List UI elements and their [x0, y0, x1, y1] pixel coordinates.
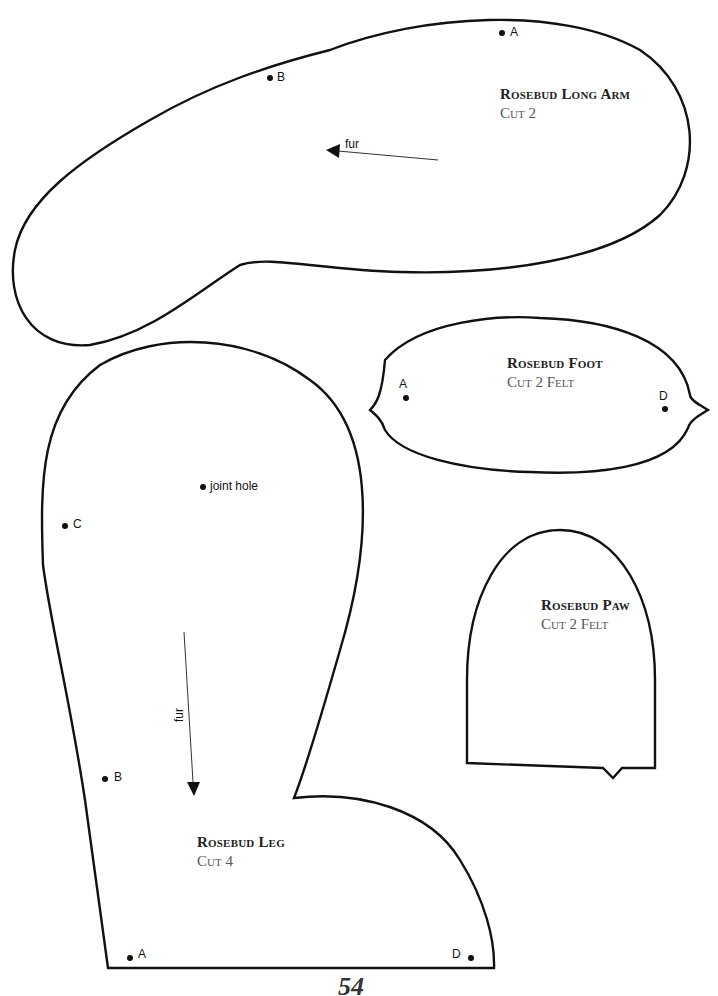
foot-outline [370, 317, 708, 472]
leg-fur-label: fur [172, 708, 186, 722]
point-B-leg [102, 776, 108, 782]
point-B-arm [267, 75, 273, 81]
point-joint-hole [200, 484, 206, 490]
leg-point-C-label: C [73, 517, 82, 531]
foot-point-D-label: D [659, 389, 668, 403]
paw-outline [467, 530, 655, 778]
leg-point-A-label: A [138, 947, 146, 961]
foot-point-A-label: A [399, 377, 407, 391]
fur-arrow-arm-head [326, 144, 340, 158]
long-arm-cut: Cut 2 [500, 105, 536, 122]
point-D-leg [468, 955, 474, 961]
point-A-arm [499, 30, 505, 36]
paw-title: Rosebud Paw [541, 597, 630, 614]
fur-arrow-leg-head [187, 782, 200, 796]
arm-point-A-label: A [510, 25, 518, 39]
leg-joint-hole-label: joint hole [210, 479, 258, 493]
leg-title: Rosebud Leg [197, 834, 285, 851]
leg-point-D-label: D [452, 947, 461, 961]
arm-fur-label: fur [345, 137, 359, 151]
point-A-leg [127, 955, 133, 961]
point-D-foot [662, 406, 668, 412]
long-arm-title: Rosebud Long Arm [500, 86, 630, 103]
long-arm-outline [13, 20, 690, 345]
paw-cut: Cut 2 Felt [541, 616, 608, 633]
point-C-leg [62, 523, 68, 529]
leg-point-B-label: B [114, 770, 122, 784]
fur-arrow-arm-line [338, 151, 438, 160]
leg-outline [42, 342, 494, 968]
point-A-foot [403, 395, 409, 401]
arm-point-B-label: B [277, 70, 285, 84]
leg-cut: Cut 4 [197, 853, 233, 870]
page-number: 54 [338, 972, 364, 996]
foot-title: Rosebud Foot [507, 355, 603, 372]
foot-cut: Cut 2 Felt [507, 374, 574, 391]
